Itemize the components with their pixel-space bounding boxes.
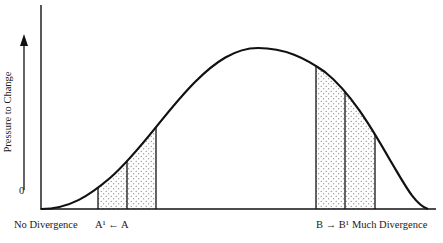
y-axis-label: Pressure to Change (2, 71, 13, 152)
y-zero-label: 0 (19, 185, 24, 196)
diagram-canvas (0, 0, 443, 243)
x-label-a-group: A¹ ← A (95, 219, 128, 230)
x-label-no-divergence: No Divergence (14, 219, 78, 230)
x-label-b-group: B → B¹ (316, 219, 349, 230)
x-label-much-divergence: Much Divergence (352, 219, 427, 230)
arrow-up-icon (20, 34, 28, 190)
